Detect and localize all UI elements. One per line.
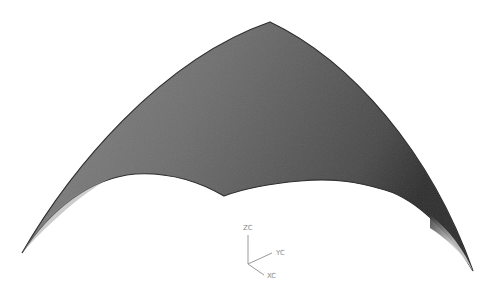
y-axis-line [248,253,272,264]
y-axis-label: YC [275,249,285,257]
x-axis-label: XC [267,272,276,280]
cad-viewport[interactable]: ZC YC XC [0,0,487,301]
surface-render: ZC YC XC [0,0,487,301]
surface-texture [22,22,473,271]
axis-triad [248,235,272,275]
z-axis-label: ZC [243,224,253,232]
x-axis-line [248,264,264,275]
